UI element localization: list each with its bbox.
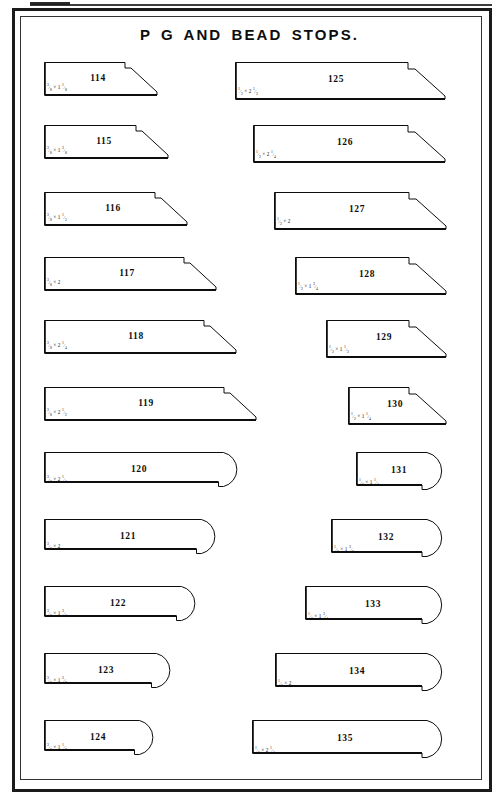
profile-dimension-119: 3⁄8 × 2 1⁄2 (47, 409, 67, 415)
profile-number-133: 133 (365, 599, 381, 609)
molding-profile-120: 1203⁄8 × 2 1⁄4 (44, 452, 247, 493)
molding-profile-133: 1331⁄2 × 1 3⁄4 (305, 586, 452, 630)
molding-profile-121: 1213⁄8 × 2 (44, 519, 225, 560)
profile-number-127: 127 (349, 204, 365, 214)
molding-profile-128: 1281⁄2 × 1 3⁄4 (295, 257, 452, 300)
molding-profile-125: 1251⁄2 × 2 1⁄2 (235, 62, 451, 105)
profile-number-132: 132 (378, 532, 394, 542)
profile-dimension-129: 1⁄2 × 1 1⁄2 (329, 346, 349, 352)
profile-dimension-125: 1⁄2 × 2 1⁄2 (238, 88, 258, 94)
profile-number-115: 115 (96, 136, 112, 146)
profile-dimension-114: 3⁄8 × 1 1⁄8 (47, 84, 67, 90)
profile-number-117: 117 (119, 268, 135, 278)
profile-dimension-124: 3⁄8 × 1 1⁄8 (47, 744, 67, 750)
profile-dimension-132: 1⁄2 × 1 3⁄8 (334, 546, 354, 552)
profile-number-131: 131 (391, 465, 407, 475)
molding-profile-117: 1173⁄8 × 2 (44, 257, 222, 296)
molding-profile-134: 1341⁄2 × 2 (275, 653, 452, 697)
profile-number-120: 120 (131, 464, 147, 474)
profile-dimension-117: 3⁄8 × 2 (47, 279, 61, 285)
molding-profile-114: 1143⁄8 × 1 1⁄8 (44, 62, 163, 101)
molding-profile-129: 1291⁄2 × 1 1⁄2 (326, 320, 452, 363)
molding-profile-127: 1271⁄2 × 2 (274, 192, 452, 235)
molding-profile-130: 1301⁄2 × 1 1⁄4 (348, 387, 452, 430)
catalog-page: P G AND BEAD STOPS. 1143⁄8 × 1 1⁄81153⁄8… (0, 0, 499, 804)
profile-dimension-128: 1⁄2 × 1 3⁄4 (298, 283, 318, 289)
profile-dimension-127: 1⁄2 × 2 (277, 218, 291, 224)
molding-profile-126: 1261⁄2 × 2 1⁄4 (253, 125, 451, 168)
profile-number-121: 121 (120, 531, 136, 541)
profile-dimension-133: 1⁄2 × 1 3⁄4 (308, 613, 328, 619)
profile-dimension-130: 1⁄2 × 1 1⁄4 (351, 413, 371, 419)
profile-number-116: 116 (105, 203, 121, 213)
profile-number-123: 123 (98, 665, 114, 675)
profile-number-130: 130 (387, 399, 403, 409)
profile-number-125: 125 (328, 74, 344, 84)
profile-dimension-121: 3⁄8 × 2 (47, 543, 61, 549)
molding-profile-123: 1233⁄8 × 1 3⁄8 (44, 653, 180, 694)
profile-dimension-123: 3⁄8 × 1 3⁄8 (47, 677, 67, 683)
profile-number-135: 135 (337, 733, 353, 743)
molding-profile-124: 1243⁄8 × 1 1⁄8 (44, 720, 163, 761)
scan-artifact-line (30, 4, 492, 6)
profile-number-129: 129 (376, 332, 392, 342)
molding-profile-118: 1183⁄8 × 2 1⁄4 (44, 320, 242, 359)
profile-dimension-135: 1⁄2 × 2 1⁄4 (255, 747, 275, 753)
profile-number-128: 128 (359, 269, 375, 279)
profile-dimension-126: 1⁄2 × 2 1⁄4 (256, 151, 276, 157)
molding-profile-116: 1163⁄8 × 1 1⁄2 (44, 192, 193, 231)
profile-dimension-122: 3⁄8 × 1 3⁄4 (47, 610, 67, 616)
molding-profile-115: 1153⁄8 × 1 3⁄8 (44, 125, 174, 164)
profile-number-114: 114 (90, 73, 106, 83)
profile-number-118: 118 (128, 331, 144, 341)
profile-number-119: 119 (138, 398, 154, 408)
profile-number-134: 134 (349, 666, 365, 676)
profile-dimension-115: 3⁄8 × 1 3⁄8 (47, 147, 67, 153)
molding-profile-119: 1193⁄8 × 2 1⁄2 (44, 387, 262, 426)
profile-number-122: 122 (110, 598, 126, 608)
profile-dimension-120: 3⁄8 × 2 1⁄4 (47, 476, 67, 482)
page-title: P G AND BEAD STOPS. (0, 26, 499, 43)
profile-dimension-131: 1⁄2 × 1 1⁄4 (359, 479, 379, 485)
profile-number-124: 124 (90, 732, 106, 742)
profile-dimension-134: 1⁄2 × 2 (278, 680, 292, 686)
molding-profile-122: 1223⁄8 × 1 3⁄4 (44, 586, 205, 627)
profile-number-126: 126 (337, 137, 353, 147)
profile-dimension-118: 3⁄8 × 2 1⁄4 (47, 342, 67, 348)
molding-profile-131: 1311⁄2 × 1 1⁄4 (356, 452, 452, 496)
molding-profile-132: 1321⁄2 × 1 3⁄8 (331, 519, 452, 563)
profile-dimension-116: 3⁄8 × 1 1⁄2 (47, 214, 67, 220)
molding-profile-135: 1351⁄2 × 2 1⁄4 (252, 720, 452, 764)
